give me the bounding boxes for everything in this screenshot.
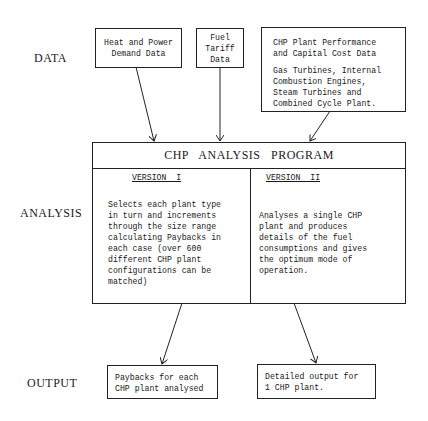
arrow-chp-to-program xyxy=(310,111,330,141)
version-1-text: through the size range xyxy=(108,221,250,232)
input-box-fuel-tariff: Fuel Tariff Data xyxy=(196,28,244,68)
version-2-panel: VERSION II Analyses a single CHP plant a… xyxy=(251,172,406,276)
version-1-text: matched) xyxy=(108,276,250,287)
box-title: and Capital Cost Data xyxy=(273,48,405,59)
box-text: Data xyxy=(197,54,243,65)
box-text: Detailed output for xyxy=(265,371,375,382)
version-2-text: plant and produces xyxy=(259,221,406,232)
box-text: 1 CHP plant. xyxy=(265,382,375,393)
version-2-text: consumptions and gives xyxy=(259,243,406,254)
box-text: Fuel xyxy=(197,32,243,43)
arrow-v2-to-output xyxy=(294,303,316,363)
box-text: Combustion Engines, xyxy=(273,76,405,87)
box-text: Demand Data xyxy=(96,48,181,59)
version-2-heading: VERSION II xyxy=(251,172,406,183)
version-1-heading: VERSION I xyxy=(93,172,250,183)
box-title: CHP Plant Performance xyxy=(273,37,405,48)
version-1-text: calculating Paybacks in xyxy=(108,232,250,243)
input-box-heat-power-demand: Heat and Power Demand Data xyxy=(95,28,182,68)
version-1-text: each case (over 600 xyxy=(108,243,250,254)
row-label-analysis: ANALYSIS xyxy=(20,206,82,221)
row-label-output: OUTPUT xyxy=(27,376,77,391)
version-1-text: in turn and increments xyxy=(108,210,250,221)
version-1-text: configurations can be xyxy=(108,265,250,276)
input-box-chp-plant-performance: CHP Plant Performance and Capital Cost D… xyxy=(261,27,406,112)
box-text: Combined Cycle Plant. xyxy=(273,98,405,109)
output-box-detailed: Detailed output for 1 CHP plant. xyxy=(257,364,376,399)
version-1-panel: VERSION I Selects each plant type in tur… xyxy=(93,172,250,287)
version-2-text: operation. xyxy=(259,265,406,276)
row-label-data: DATA xyxy=(34,51,67,66)
version-1-text: Selects each plant type xyxy=(108,199,250,210)
box-text: CHP plant analysed xyxy=(115,383,217,394)
version-2-text: Analyses a single CHP xyxy=(259,210,406,221)
box-text: Gas Turbines, Internal xyxy=(273,65,405,76)
arrow-v1-to-output xyxy=(162,303,182,364)
box-text: Heat and Power xyxy=(96,37,181,48)
arrow-heat-to-program xyxy=(136,67,154,141)
version-2-text: details of the fuel xyxy=(259,232,406,243)
version-2-text: the optimum mode of xyxy=(259,254,406,265)
box-text: Steam Turbines and xyxy=(273,87,405,98)
version-1-text: different CHP plant xyxy=(108,254,250,265)
program-title: CHP ANALYSIS PROGRAM xyxy=(93,143,405,169)
box-text: Tariff xyxy=(197,43,243,54)
output-box-paybacks: Paybacks for each CHP plant analysed xyxy=(107,365,218,399)
program-box: CHP ANALYSIS PROGRAM VERSION I Selects e… xyxy=(92,142,406,304)
box-text: Paybacks for each xyxy=(115,372,217,383)
